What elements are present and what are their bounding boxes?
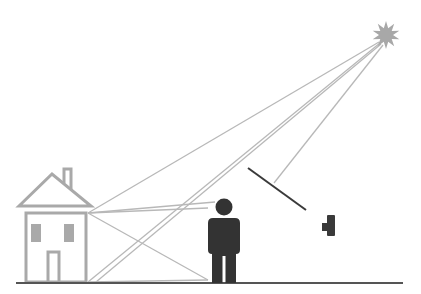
sun-icon <box>373 21 400 49</box>
house-roof <box>19 174 91 206</box>
light-ray <box>88 280 208 282</box>
mirror <box>248 168 306 210</box>
light-ray <box>88 42 379 213</box>
light-ray <box>274 45 383 183</box>
light-ray <box>88 208 208 213</box>
house-window-right <box>64 224 74 242</box>
person-icon <box>208 199 240 284</box>
camera-icon <box>322 215 335 236</box>
house-wall <box>26 213 86 282</box>
diagram-canvas <box>0 0 421 294</box>
diagram-svg <box>0 0 421 294</box>
house-door <box>48 252 59 282</box>
light-ray <box>88 213 208 280</box>
light-ray <box>88 202 215 213</box>
house <box>19 169 91 282</box>
house-window-left <box>31 224 41 242</box>
